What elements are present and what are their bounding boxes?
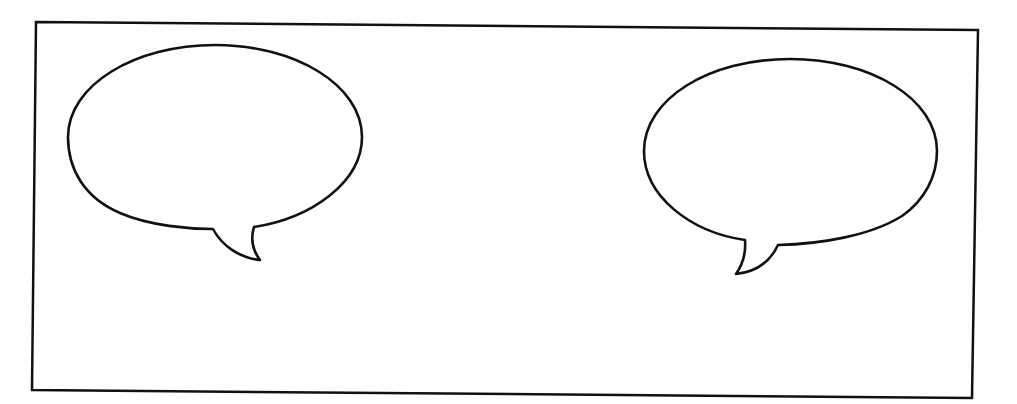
comic-panel-drawing bbox=[0, 0, 1017, 404]
comic-panel bbox=[0, 0, 1017, 404]
speech-bubble-left[interactable] bbox=[68, 45, 362, 260]
speech-bubble-right[interactable] bbox=[644, 59, 937, 274]
